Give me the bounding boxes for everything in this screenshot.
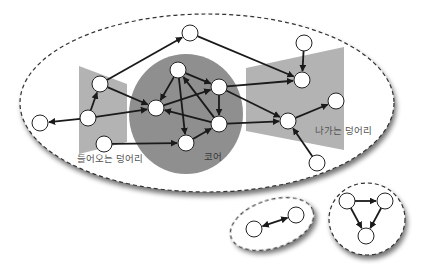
out-component-label: 나가는 덩어리 <box>315 125 372 136</box>
node-C <box>80 110 96 126</box>
bow-tie-diagram: 들어오는 덩어리 코어 나가는 덩어리 <box>0 0 427 271</box>
node-P <box>246 221 262 237</box>
node-S <box>377 193 393 209</box>
node-I <box>211 116 227 132</box>
node-G <box>148 100 164 116</box>
node-T <box>358 228 374 244</box>
node-A <box>182 25 198 41</box>
node-F <box>170 62 186 78</box>
node-M <box>328 93 344 109</box>
node-O <box>309 155 325 171</box>
core-label: 코어 <box>204 151 222 162</box>
edge-E-J <box>112 143 177 144</box>
node-B <box>92 76 108 92</box>
node-N <box>280 113 296 129</box>
diagram-canvas: 들어오는 덩어리 코어 나가는 덩어리 <box>0 0 427 271</box>
node-K <box>296 35 312 51</box>
in-component-label: 들어오는 덩어리 <box>77 153 143 164</box>
node-E <box>96 136 112 152</box>
node-H <box>211 79 227 95</box>
node-D <box>32 115 48 131</box>
node-R <box>339 193 355 209</box>
small-pair-boundary <box>224 188 321 260</box>
node-Q <box>288 207 304 223</box>
regions-layer <box>20 14 405 260</box>
node-J <box>178 135 194 151</box>
edge-K-L <box>302 51 303 71</box>
node-L <box>294 72 310 88</box>
